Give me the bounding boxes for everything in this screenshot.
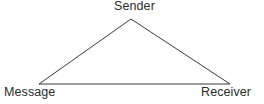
node-label-receiver: Receiver (201, 86, 251, 99)
triangle-outline (39, 19, 230, 84)
node-label-sender: Sender (114, 0, 155, 13)
communication-triangle-figure: Sender Message Receiver (0, 0, 264, 104)
node-label-message: Message (4, 86, 55, 99)
